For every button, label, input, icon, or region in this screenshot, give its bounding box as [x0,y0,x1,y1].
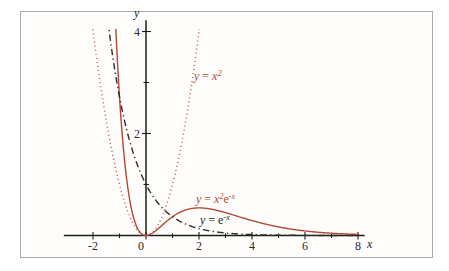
y-tick-label-2: 2 [122,128,140,140]
y-tick-label-4: 4 [122,26,140,38]
curve-label-segment: = [201,192,214,206]
curve-label-x^2: y = x2 [194,67,222,83]
curve-label-x^2*e^-x: y = x2e-x [196,190,235,206]
x-tick-label-0: 0 [132,240,150,252]
x-tick-label--2: -2 [84,240,102,252]
x-tick-label-8: 8 [349,240,367,252]
figure-canvas: x y -20246824y = x2y = x2e-xy = e-x [0,0,449,271]
curve-label-e^-x: y = e-x [200,211,230,227]
x-tick-label-6: 6 [296,240,314,252]
curve-x^2*e^-x [115,17,359,236]
curve-label-segment: = [205,213,218,227]
plot-area [0,0,449,271]
x-axis-label: x [367,237,372,252]
curve-label-segment: -x [223,213,229,222]
y-axis-label: y [134,6,139,21]
curve-label-segment: 2 [217,69,221,78]
x-tick-label-2: 2 [190,240,208,252]
x-tick-label-4: 4 [243,240,261,252]
curve-label-segment: = [199,69,212,83]
curve-label-segment: -x [229,192,235,201]
